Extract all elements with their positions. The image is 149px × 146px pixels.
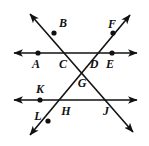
- geometry-figure: A B C D E F G H J K L: [0, 0, 149, 146]
- point-dot-k: [37, 97, 42, 102]
- point-dot-f: [110, 30, 115, 35]
- point-dot-l: [45, 118, 50, 123]
- point-dot-e: [109, 50, 114, 55]
- geometry-canvas: [0, 0, 149, 146]
- point-dot-a: [35, 50, 40, 55]
- point-dot-b: [51, 30, 56, 35]
